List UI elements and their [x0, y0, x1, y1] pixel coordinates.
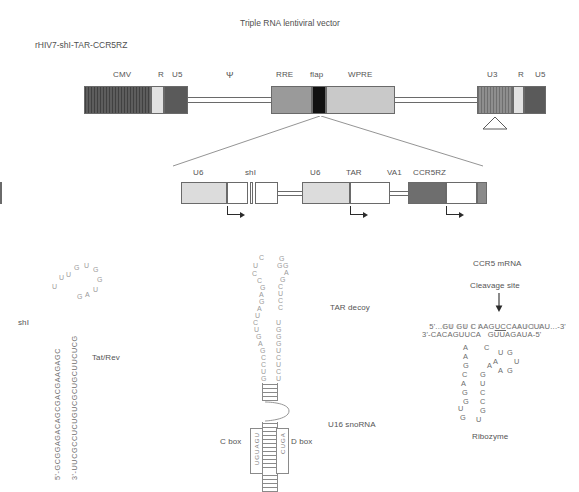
- rz-core-left-2: G: [463, 362, 469, 369]
- shi-loop-nt-9: G: [77, 293, 82, 300]
- base-pair-ticks: [424, 323, 574, 335]
- shi-panel-label: shI: [18, 318, 29, 327]
- shi-loop-nt-7: U: [93, 286, 98, 293]
- rz-core-left-5: G: [462, 389, 468, 396]
- vector-block-r1: [151, 86, 164, 114]
- shi-loop-nt-8: A: [85, 291, 90, 298]
- tar-right-nt-0: G: [277, 262, 282, 269]
- vector-block-rre: [271, 86, 312, 114]
- shi-loop-nt-6: G: [97, 276, 102, 283]
- cassette-label-shi: shI: [245, 168, 256, 177]
- d-box: CUGA: [276, 428, 289, 474]
- vector-label-u3: U3: [487, 70, 497, 79]
- tar-right-nt-2: G: [283, 262, 288, 269]
- cassette-block-tail: [477, 182, 487, 204]
- figure-title: Triple RNA lentiviral vector: [240, 18, 340, 28]
- rz-core-left-0: A: [463, 344, 468, 351]
- vector-label-wpre: WPRE: [348, 70, 372, 79]
- ribozyme-panel: CCR5 mRNA Cleavage site 5'...GU GU C AAG…: [410, 250, 579, 440]
- cassette-block-shi-a: [227, 182, 248, 204]
- tar-right-nt-5: C: [278, 283, 283, 290]
- tar-left-nt-10: U: [254, 326, 259, 333]
- tar-panel-label: TAR decoy: [330, 303, 370, 312]
- vector-block-r2: [513, 86, 524, 114]
- tar-right-nt-3: A: [284, 269, 289, 276]
- vector-block-flap: [312, 86, 326, 114]
- rz-core-right-3: U: [480, 380, 485, 387]
- shi-top-strand: 5'-GCGGAGACAGCGACGAAGAGC: [53, 302, 62, 480]
- vector-block-cmv: [84, 86, 151, 114]
- tar-left-nt-5: A: [259, 291, 264, 298]
- internal-bulge-loop: [263, 401, 291, 423]
- ccr5-mrna-label: CCR5 mRNA: [473, 259, 521, 268]
- shi-loop-nt-2: U: [66, 271, 71, 278]
- tar-right-nt-11: G: [276, 333, 281, 340]
- tar-panel: TAR decoy U16 snoRNA C box D box U C C C…: [230, 250, 390, 490]
- rz-core-left-7: U: [458, 405, 463, 412]
- c-box: UGUAGU: [250, 428, 263, 474]
- promoter-arrow-1: [227, 206, 247, 215]
- vector-line-psi: [188, 97, 271, 103]
- ribozyme-label: Ribozyme: [472, 432, 508, 441]
- rz-core-left-4: A: [461, 380, 466, 387]
- cassette-block-u6a: [0, 182, 2, 204]
- shi-bottom-strand: 3'-UUCGCCUCUGUCGCUGCUUCUCG: [70, 302, 79, 480]
- rz-core-right-6: G: [480, 407, 486, 414]
- cassette-label-u6a: U6: [193, 168, 203, 177]
- vector-label-flap: flap: [310, 70, 323, 79]
- rz-core-left-8: G: [460, 414, 466, 421]
- tar-left-nt-11: G: [256, 333, 261, 340]
- tar-right-nt-15: U: [276, 361, 281, 368]
- tar-right-nt-14: C: [276, 354, 281, 361]
- tar-left-nt-14: C: [261, 354, 266, 361]
- u16-scaffold-label: U16 snoRNA: [328, 420, 376, 429]
- cassette-line-2: [390, 191, 408, 196]
- rz-core-right-2: G: [480, 371, 486, 378]
- rz-core-mid-3: G: [507, 367, 513, 374]
- cassette-block-tar: [350, 182, 390, 204]
- rz-core-mid-0: U: [498, 349, 503, 356]
- cassette-label-ccr5rz: CCR5RZ: [413, 168, 446, 177]
- shi-loop-nt-4: U: [84, 262, 89, 269]
- rz-core-mid-5: A: [493, 358, 498, 365]
- tar-left-nt-13: G: [260, 347, 265, 354]
- cleavage-site-label: Cleavage site: [470, 281, 520, 290]
- cleavage-arrow-icon: [494, 293, 504, 313]
- tar-left-nt-7: A: [257, 305, 262, 312]
- tar-left-nt-0: U: [253, 262, 258, 269]
- tar-right-nt-12: G: [276, 340, 281, 347]
- tar-left-nt-2: C: [257, 277, 262, 284]
- cassette-block-shi-c: [255, 182, 278, 204]
- d-box-sequence: CUGA: [280, 432, 286, 454]
- vector-label-u5a: U5: [172, 70, 182, 79]
- promoter-arrow-2: [350, 206, 370, 215]
- tar-left-nt-12: A: [258, 340, 263, 347]
- rz-core-right-1: A: [487, 362, 492, 369]
- rz-core-mid-1: G: [507, 349, 513, 356]
- promoter-arrow-3: [446, 206, 466, 215]
- shi-target-label: Tat/Rev: [92, 353, 120, 362]
- c-box-label: C box: [220, 437, 241, 446]
- c-box-sequence: UGUAGU: [254, 432, 260, 465]
- tar-right-nt-1: G: [279, 255, 284, 262]
- vector-label-cmv: CMV: [113, 70, 131, 79]
- tar-left-nt-6: G: [259, 298, 264, 305]
- vector-block-u5b: [524, 86, 546, 114]
- cassette-line-1: [278, 191, 302, 196]
- rz-core-right-0: C: [484, 344, 489, 351]
- cassette-block-shi-b: [250, 182, 253, 204]
- rz-core-right-4: C: [480, 389, 485, 396]
- vector-backbone: [0, 86, 579, 116]
- vector-label-psi: Ψ: [226, 70, 234, 80]
- tar-left-nt-16: U: [261, 368, 266, 375]
- rz-core-left-6: G: [463, 398, 469, 405]
- tar-left-nt-8: U: [255, 312, 260, 319]
- tar-left-nt-15: C: [261, 361, 266, 368]
- shi-loop-nt-0: U: [52, 283, 57, 290]
- tar-right-nt-13: U: [276, 347, 281, 354]
- construct-name: rHIV7-shI-TAR-CCR5RZ: [35, 40, 127, 50]
- cassette-block-ccr5rz: [446, 182, 477, 204]
- tar-right-nt-16: C: [276, 368, 281, 375]
- rz-core-right-7: U: [476, 416, 481, 423]
- rz-core-right-5: C: [480, 398, 485, 405]
